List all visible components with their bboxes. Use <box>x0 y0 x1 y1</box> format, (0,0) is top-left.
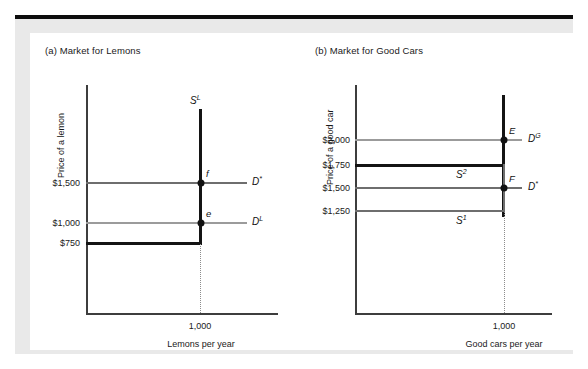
panel-a-supply-floor-segment <box>86 242 202 245</box>
panel-b-point-e-marker <box>500 137 507 144</box>
panel-a-y-axis-title: Price of a lemon <box>56 113 66 178</box>
curve-label-sup: G <box>535 132 540 139</box>
panel-a-ytick-750: $750 <box>30 238 80 248</box>
panel-market-for-good-cars: (b) Market for Good Cars Price of a good… <box>302 33 573 350</box>
panel-b-x-axis <box>355 313 552 315</box>
curve-label-base: S <box>456 215 463 226</box>
panel-b-ytick-2000: $2,000 <box>302 135 350 145</box>
panel-a-y-axis <box>86 85 88 314</box>
panel-b-point-f-label: F <box>509 173 515 184</box>
panel-a-point-e-label: e <box>206 208 211 219</box>
panel-a-demand-dl-line <box>86 222 247 224</box>
curve-label-sup: * <box>259 175 262 182</box>
curve-label-sup: * <box>535 180 538 187</box>
panel-b-supply-s1-floor-segment <box>355 210 505 212</box>
panel-b-point-f-marker <box>500 185 507 192</box>
curve-label-base: S <box>456 169 463 180</box>
figure-top-rule <box>15 15 573 19</box>
panel-a-point-f-label: f <box>206 168 209 179</box>
curve-label-base: S <box>190 95 197 106</box>
panel-b-y-axis-title: Price of a good car <box>325 109 335 185</box>
curve-label-sup: 2 <box>463 168 467 175</box>
panel-b-ytick-1500: $1,500 <box>302 183 350 193</box>
panel-b-quantity-drop-line <box>504 212 505 313</box>
panel-market-for-lemons: (a) Market for Lemons Price of a lemon D… <box>30 33 300 350</box>
panel-b-ytick-1750: $1,750 <box>302 160 350 170</box>
curve-label-sup: 1 <box>463 214 467 221</box>
panel-a-ytick-1000: $1,000 <box>30 218 80 228</box>
panel-a-demand-dstar-label: D* <box>252 176 262 187</box>
panel-b-demand-dg-label: DG <box>528 133 541 144</box>
panel-b-point-e-label: E <box>509 125 515 136</box>
panel-a-xtick-1000: 1,000 <box>189 321 212 331</box>
panel-b-supply-s2-label: S2 <box>456 169 467 180</box>
panel-a-point-e-marker <box>197 220 204 227</box>
panel-b-y-axis <box>355 85 357 314</box>
panel-b-title: (b) Market for Good Cars <box>315 45 423 56</box>
panel-b-supply-s2-floor-segment <box>355 164 505 167</box>
panel-b-xtick-1000: 1,000 <box>493 321 516 331</box>
panel-a-supply-sl-label: SL <box>190 95 201 106</box>
panel-a-x-axis <box>86 313 278 315</box>
panel-b-demand-dstar-label: D* <box>528 181 538 192</box>
curve-label-sup: L <box>197 94 201 101</box>
figure-card: (a) Market for Lemons Price of a lemon D… <box>30 33 573 350</box>
panel-b-demand-dg-line <box>355 139 522 141</box>
panel-b-x-axis-title: Good cars per year <box>430 339 578 349</box>
panel-a-x-axis-title: Lemons per year <box>130 339 272 349</box>
panel-b-ytick-1250: $1,250 <box>302 206 350 216</box>
panel-a-title: (a) Market for Lemons <box>45 45 141 56</box>
panel-a-quantity-drop-line <box>200 244 201 313</box>
curve-label-sup: L <box>259 215 263 222</box>
panel-a-demand-dl-label: DL <box>252 216 263 227</box>
panel-b-demand-dstar-line <box>355 187 522 189</box>
panel-a-point-f-marker <box>197 180 204 187</box>
figure-root: (a) Market for Lemons Price of a lemon D… <box>0 0 588 369</box>
panel-a-demand-dstar-line <box>86 182 247 184</box>
panel-a-ytick-1500: $1,500 <box>30 178 80 188</box>
panel-b-supply-s1-label: S1 <box>456 215 467 226</box>
